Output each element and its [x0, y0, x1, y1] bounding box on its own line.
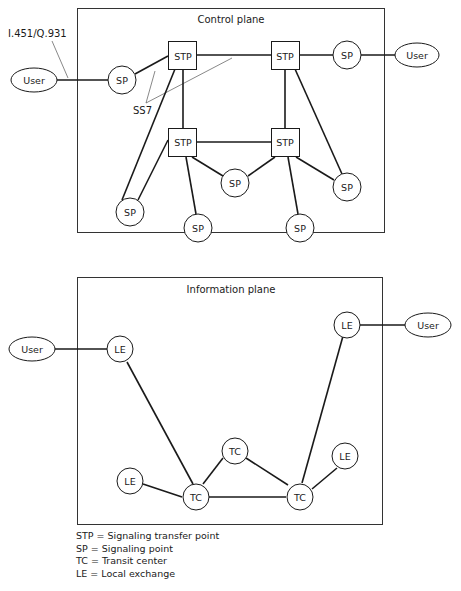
le-label: LE	[114, 344, 125, 355]
sp-label: SP	[229, 178, 241, 189]
stp-label: STP	[276, 51, 294, 62]
tc-label: TC	[228, 446, 241, 457]
le-label: LE	[341, 320, 352, 331]
interface-label: I.451/Q.931	[8, 28, 67, 39]
sp-label: SP	[341, 182, 353, 193]
sp-label: SP	[124, 207, 136, 218]
le-label: LE	[124, 476, 135, 487]
sp-label: SP	[341, 50, 353, 61]
le-label: LE	[339, 451, 350, 462]
tc-label: TC	[189, 492, 202, 503]
user-label: User	[406, 50, 428, 61]
stp-label: STP	[174, 51, 192, 62]
ss7-label: SS7	[133, 105, 152, 116]
sp-label: SP	[192, 223, 204, 234]
interface-pointer	[52, 41, 68, 78]
legend-item-sp: SP = Signaling point	[76, 543, 219, 556]
control-plane-box	[78, 9, 385, 233]
legend: STP = Signaling transfer point SP = Sign…	[76, 530, 219, 580]
sp-label: SP	[116, 75, 128, 86]
ss7-pointer-1	[146, 71, 155, 103]
stp-label: STP	[276, 137, 294, 148]
user-label: User	[417, 320, 439, 331]
user-label: User	[21, 344, 43, 355]
sp-label: SP	[294, 223, 306, 234]
user-label: User	[23, 75, 45, 86]
legend-item-tc: TC = Transit center	[76, 555, 219, 568]
stp-label: STP	[174, 137, 192, 148]
legend-item-le: LE = Local exchange	[76, 568, 219, 581]
diagram-canvas: Control plane I.451/Q.931 SS7 User User …	[0, 0, 461, 591]
tc-label: TC	[293, 492, 306, 503]
control-plane-title: Control plane	[197, 14, 264, 25]
legend-item-stp: STP = Signaling transfer point	[76, 530, 219, 543]
information-plane-title: Information plane	[187, 284, 276, 295]
